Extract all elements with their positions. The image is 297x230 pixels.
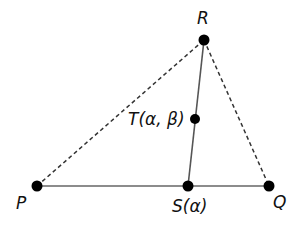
triangle-diagram: R T(α, β) P S(α) Q bbox=[0, 0, 297, 230]
label-q: Q bbox=[273, 192, 286, 212]
point-r bbox=[199, 35, 210, 46]
label-s: S(α) bbox=[172, 196, 207, 216]
point-s bbox=[183, 181, 194, 192]
segment-r-q-dashed bbox=[204, 40, 269, 186]
label-t: T(α, β) bbox=[128, 109, 185, 129]
point-q bbox=[264, 181, 275, 192]
point-t bbox=[190, 114, 200, 124]
segment-r-s bbox=[188, 40, 204, 186]
label-p: P bbox=[16, 193, 27, 213]
point-p bbox=[32, 181, 43, 192]
diagram-svg: R T(α, β) P S(α) Q bbox=[0, 0, 297, 230]
label-r: R bbox=[197, 8, 209, 28]
